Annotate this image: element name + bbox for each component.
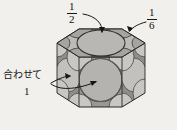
fraction-numerator: 1 [147, 7, 157, 18]
fraction-denominator: 6 [147, 20, 157, 31]
fraction-denominator: 2 [67, 14, 77, 25]
label-awasete-value: 1 [24, 86, 30, 97]
label-one-half: 1 2 [67, 1, 77, 26]
fraction-one-sixth: 1 6 [147, 7, 157, 31]
fraction-one-half: 1 2 [67, 1, 77, 25]
label-awasete: 合わせて [3, 70, 42, 80]
fraction-numerator: 1 [67, 1, 77, 12]
sphere-top-center-half [77, 30, 125, 56]
label-one-sixth: 1 6 [147, 7, 157, 32]
